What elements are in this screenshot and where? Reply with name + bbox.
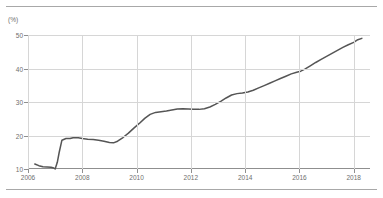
x-axis-tick (354, 169, 355, 173)
x-axis-tick-label: 2012 (184, 174, 198, 181)
x-axis-tick (137, 169, 138, 173)
x-axis-tick (82, 169, 83, 173)
gridline-horizontal (28, 69, 370, 70)
x-axis-tick-label: 2014 (238, 174, 252, 181)
x-axis-tick (245, 169, 246, 173)
gridline-horizontal (28, 102, 370, 103)
plot-area: 10203040502006200820102012201420162018 (28, 35, 370, 169)
y-axis-tick-label: 50 (16, 32, 23, 39)
gridline-vertical (299, 35, 300, 169)
x-axis-tick-label: 2010 (129, 174, 143, 181)
x-axis-tick-label: 2018 (346, 174, 360, 181)
gridline-horizontal (28, 35, 370, 36)
gridline-vertical (191, 35, 192, 169)
gridline-vertical (28, 35, 29, 169)
data-line-share (35, 38, 362, 169)
gridline-vertical (245, 35, 246, 169)
x-axis-tick (299, 169, 300, 173)
gridline-vertical (137, 35, 138, 169)
y-axis-tick-label: 10 (16, 166, 23, 173)
gridline-vertical (82, 35, 83, 169)
x-axis-tick-label: 2006 (21, 174, 35, 181)
y-axis-tick-label: 40 (16, 65, 23, 72)
gridline-vertical (354, 35, 355, 169)
y-axis-unit-label: (%) (8, 16, 18, 23)
x-axis-tick (28, 169, 29, 173)
y-axis-tick-label: 30 (16, 99, 23, 106)
y-axis-tick-label: 20 (16, 132, 23, 139)
chart-figure: (%) 102030405020062008201020122014201620… (0, 0, 383, 198)
x-axis-tick-label: 2016 (292, 174, 306, 181)
x-axis-tick (191, 169, 192, 173)
x-axis-tick-label: 2008 (75, 174, 89, 181)
gridline-horizontal (28, 136, 370, 137)
bottom-divider-rule (6, 189, 377, 190)
top-divider-rule (6, 6, 377, 7)
